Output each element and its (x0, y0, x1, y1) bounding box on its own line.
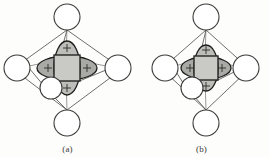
ligand-front[interactable] (181, 77, 203, 99)
ligand-left[interactable] (4, 55, 30, 81)
ligand-right[interactable] (105, 55, 131, 81)
caption-b: (b) (134, 144, 269, 154)
ligand-right[interactable] (233, 55, 259, 81)
ligand-top[interactable] (193, 4, 219, 30)
figure-container: (a) (0, 0, 269, 157)
ligand-front[interactable] (40, 77, 62, 99)
ligand-left[interactable] (152, 55, 178, 81)
metal-center-a[interactable] (54, 55, 80, 81)
octahedron-svg-a (0, 0, 135, 140)
ligand-top[interactable] (54, 4, 80, 30)
diagram-panel-a: (a) (0, 0, 135, 157)
octahedron-svg-b (134, 0, 269, 140)
diagram-panel-b: (b) (134, 0, 269, 157)
metal-center-b[interactable] (194, 56, 218, 80)
caption-a: (a) (0, 144, 135, 154)
ligand-bottom[interactable] (54, 110, 80, 136)
ligand-bottom[interactable] (193, 110, 219, 136)
